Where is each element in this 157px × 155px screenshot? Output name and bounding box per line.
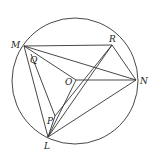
segment-MR <box>24 45 112 46</box>
segments <box>24 45 136 137</box>
point-label-N: N <box>139 76 149 86</box>
segment-MN <box>24 46 136 80</box>
point-label-P: P <box>46 116 54 126</box>
segment-RL <box>48 45 112 137</box>
circumcircle <box>12 18 138 144</box>
point-label-M: M <box>10 40 21 50</box>
segment-RN <box>112 45 136 80</box>
circle-geometry-diagram: MRNOQPL <box>0 0 157 155</box>
segment-RP <box>55 45 112 116</box>
point-label-R: R <box>108 34 116 44</box>
point-label-O: O <box>65 77 73 87</box>
point-label-Q: Q <box>30 55 38 65</box>
point-label-L: L <box>43 141 50 151</box>
